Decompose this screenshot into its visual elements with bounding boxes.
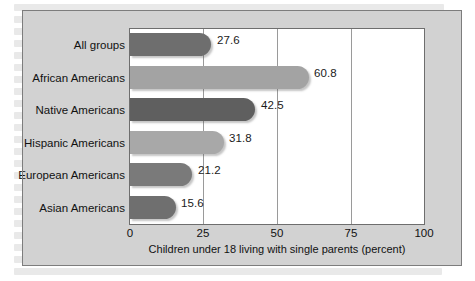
bar-row: 15.6 — [130, 192, 424, 225]
bar-row: 60.8 — [130, 62, 424, 95]
bar-value-african-americans: 60.8 — [314, 67, 337, 79]
bar-value-european-americans: 21.2 — [198, 164, 221, 176]
x-tick-50: 50 — [271, 227, 284, 239]
category-label-asian-americans: Asian Americans — [39, 192, 125, 225]
bar-value-asian-americans: 15.6 — [181, 197, 204, 209]
category-label-african-americans: African Americans — [32, 62, 125, 95]
bar-value-native-americans: 42.5 — [261, 99, 284, 111]
bar-asian-americans — [130, 196, 176, 219]
bar-row: 31.8 — [130, 127, 424, 160]
bar-value-all-groups: 27.6 — [217, 34, 240, 46]
bar-row: 42.5 — [130, 94, 424, 127]
bar-hispanic-americans — [130, 131, 224, 154]
category-axis: All groups African Americans Native Amer… — [22, 29, 125, 224]
figure-root: All groups African Americans Native Amer… — [0, 0, 475, 281]
bar-european-americans — [130, 163, 192, 186]
category-label-native-americans: Native Americans — [36, 94, 125, 127]
bar-native-americans — [130, 98, 255, 121]
category-label-european-americans: European Americans — [18, 159, 125, 192]
x-axis-ticks: 0 25 50 75 100 — [129, 227, 425, 243]
bar-row: 21.2 — [130, 159, 424, 192]
bar-all-groups — [130, 33, 211, 56]
x-tick-0: 0 — [127, 227, 133, 239]
category-label-all-groups: All groups — [74, 29, 125, 62]
x-axis-label: Children under 18 living with single par… — [129, 243, 425, 255]
bars-layer: 27.6 60.8 42.5 31.8 21.2 15.6 — [130, 29, 424, 224]
bar-row: 27.6 — [130, 29, 424, 62]
x-tick-75: 75 — [345, 227, 358, 239]
x-tick-25: 25 — [197, 227, 210, 239]
bar-african-americans — [130, 66, 309, 89]
category-label-hispanic-americans: Hispanic Americans — [24, 127, 125, 160]
bar-value-hispanic-americans: 31.8 — [229, 132, 252, 144]
x-tick-100: 100 — [414, 227, 433, 239]
